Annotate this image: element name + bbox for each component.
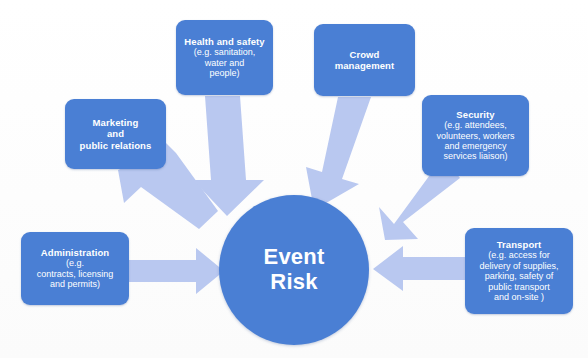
node-security-title: Security [456,109,494,120]
node-crowd-management[interactable]: Crowd management [314,24,415,96]
arrow-administration-to-center [129,248,224,294]
node-marketing-and-public-relations-title: Marketing and public relations [80,117,152,150]
node-transport-title: Transport [497,239,542,250]
node-health-and-safety-detail: (e.g. sanitation, water and people) [194,47,256,78]
node-transport-detail: (e.g. access for delivery of supplies, p… [479,250,558,302]
node-transport[interactable]: Transport (e.g. access for delivery of s… [465,228,573,314]
node-health-and-safety-title: Health and safety [184,36,264,47]
node-security-detail: (e.g. attendees, volunteers, workers and… [436,120,514,162]
node-health-and-safety[interactable]: Health and safety (e.g. sanitation, wate… [176,20,273,95]
center-node-event-risk[interactable]: Event Risk [219,195,369,345]
node-crowd-management-title: Crowd management [335,49,395,71]
node-administration-detail: (e.g. contracts, licensing and permits) [37,258,114,289]
node-marketing-and-public-relations[interactable]: Marketing and public relations [65,99,166,169]
event-risk-diagram: Event Risk Health and safety (e.g. sanit… [0,0,588,358]
center-node-label: Event Risk [264,245,325,294]
node-administration-title: Administration [41,247,109,258]
node-security[interactable]: Security (e.g. attendees, volunteers, wo… [422,95,529,176]
node-administration[interactable]: Administration (e.g. contracts, licensin… [21,232,129,305]
arrow-crowd-to-center [306,97,371,210]
arrow-transport-to-center [373,246,466,291]
